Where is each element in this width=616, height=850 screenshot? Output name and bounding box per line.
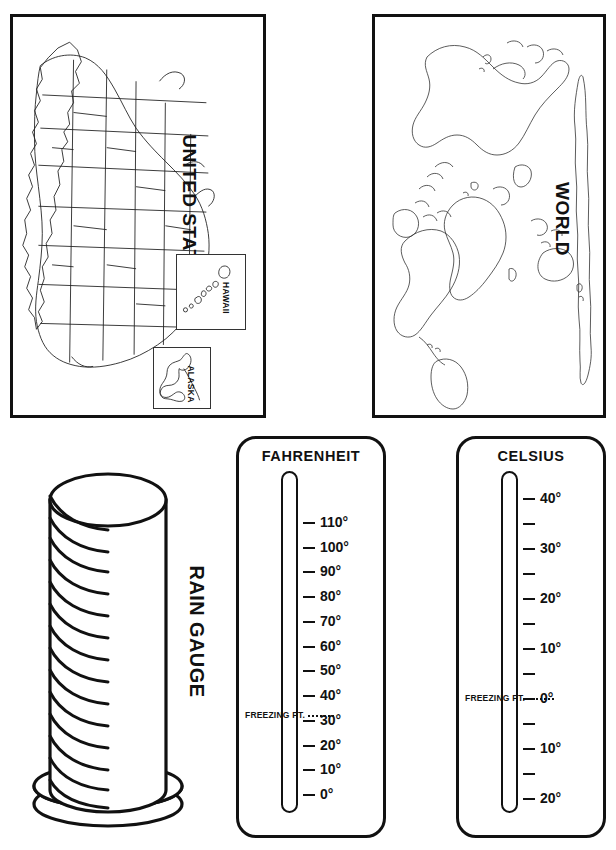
fahrenheit-thermometer-panel: FAHRENHEIT 110°100°90°80°70°60°50°40°30°… <box>236 436 386 838</box>
celsius-tick-label: 40° <box>540 491 561 505</box>
celsius-freezing-point-label: FREEZING PT. <box>465 693 525 703</box>
alaska-inset-box: ALASKA <box>153 347 211 409</box>
celsius-tick-label: 20° <box>540 591 561 605</box>
alaska-inset-label: ALASKA <box>185 366 195 403</box>
fahrenheit-freezing-point-label: FREEZING PT. <box>245 710 305 720</box>
world-map-panel: WORLD <box>372 14 606 418</box>
hawaii-inset-box: HAWAII <box>176 254 246 330</box>
celsius-tick-dash <box>523 498 535 500</box>
celsius-tick-dash <box>523 523 535 525</box>
celsius-tick-dash <box>523 648 535 650</box>
fahrenheit-tube <box>281 471 298 813</box>
fahrenheit-tick-dash <box>303 522 315 524</box>
fahrenheit-tick-dash <box>303 670 315 672</box>
celsius-tick-label: 10° <box>540 641 561 655</box>
fahrenheit-tick-label: 90° <box>320 564 341 578</box>
rain-gauge-panel: RAIN GAUGE <box>12 434 224 838</box>
celsius-tick-dash <box>523 598 535 600</box>
fahrenheit-title: FAHRENHEIT <box>239 448 383 464</box>
fahrenheit-tick-dash <box>303 547 315 549</box>
celsius-title: CELSIUS <box>459 448 603 464</box>
freezing-point-dotted-line <box>528 698 554 700</box>
fahrenheit-tick-dash <box>303 621 315 623</box>
fahrenheit-scale: 110°100°90°80°70°60°50°40°30°20°10°0° <box>303 471 383 813</box>
celsius-tick-label: 30° <box>540 541 561 555</box>
celsius-tick-dash <box>523 673 535 675</box>
fahrenheit-tick-label: 40° <box>320 688 341 702</box>
celsius-tick-dash <box>523 623 535 625</box>
fahrenheit-tick-dash <box>303 596 315 598</box>
freezing-point-dotted-line <box>308 715 334 717</box>
fahrenheit-tick-label: 50° <box>320 663 341 677</box>
hawaii-inset-label: HAWAII <box>221 282 231 314</box>
fahrenheit-tick-label: 20° <box>320 738 341 752</box>
celsius-tube <box>501 471 518 813</box>
celsius-tick-dash <box>523 748 535 750</box>
celsius-tick-dash <box>523 723 535 725</box>
celsius-scale: 40°30°20°10°0°10°20° <box>523 471 603 813</box>
united-states-map-panel: UNITED STATES HAWAII ALASKA <box>10 14 266 418</box>
fahrenheit-tick-dash <box>303 571 315 573</box>
fahrenheit-tick-dash <box>303 745 315 747</box>
celsius-tick-dash <box>523 773 535 775</box>
fahrenheit-tick-label: 80° <box>320 589 341 603</box>
celsius-tick-label: 10° <box>540 741 561 755</box>
fahrenheit-tick-label: 0° <box>320 787 333 801</box>
rain-gauge-title: RAIN GAUGE <box>185 565 208 697</box>
fahrenheit-tick-dash <box>303 646 315 648</box>
celsius-tick-dash <box>523 548 535 550</box>
alaska-outline <box>154 348 208 406</box>
fahrenheit-tick-dash <box>303 720 315 722</box>
fahrenheit-tick-dash <box>303 794 315 796</box>
fahrenheit-tick-label: 110° <box>320 515 348 529</box>
celsius-tick-dash <box>523 573 535 575</box>
hawaii-islands-outline <box>177 255 243 327</box>
celsius-tick-dash <box>523 798 535 800</box>
fahrenheit-tick-label: 70° <box>320 614 341 628</box>
fahrenheit-tick-label: 10° <box>320 762 341 776</box>
fahrenheit-tick-label: 60° <box>320 639 341 653</box>
united-states-map-outline <box>13 17 263 415</box>
celsius-thermometer-panel: CELSIUS 40°30°20°10°0°10°20° FREEZING PT… <box>456 436 606 838</box>
fahrenheit-tick-dash <box>303 695 315 697</box>
celsius-tick-label: 20° <box>540 791 561 805</box>
fahrenheit-tick-label: 100° <box>320 540 349 554</box>
world-map-title: WORLD <box>551 182 573 256</box>
fahrenheit-tick-dash <box>303 769 315 771</box>
